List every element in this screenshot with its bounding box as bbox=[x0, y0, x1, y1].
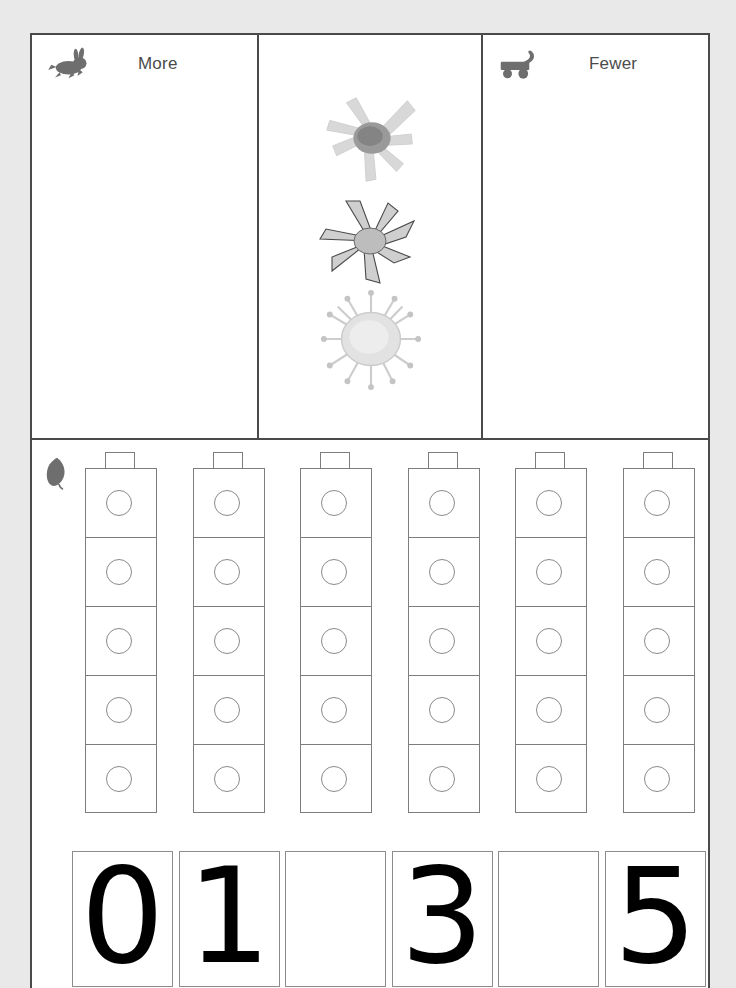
cube-circle-marker bbox=[429, 628, 455, 654]
number-value: 0 bbox=[81, 851, 165, 982]
cube-tower[interactable] bbox=[85, 452, 157, 832]
cube-segment[interactable] bbox=[85, 537, 157, 606]
leaf-icon bbox=[44, 456, 70, 490]
tower-stack bbox=[85, 468, 157, 813]
cube-segment[interactable] bbox=[623, 537, 695, 606]
cube-circle-marker bbox=[106, 628, 132, 654]
number-box[interactable]: 1 bbox=[179, 851, 280, 987]
tower-stack bbox=[515, 468, 587, 813]
tower-stack bbox=[193, 468, 265, 813]
cube-segment[interactable] bbox=[515, 744, 587, 813]
cube-segment[interactable] bbox=[85, 606, 157, 675]
tower-nub bbox=[213, 452, 243, 469]
cube-segment[interactable] bbox=[300, 468, 372, 537]
tower-stack bbox=[300, 468, 372, 813]
star-flower-image-2 bbox=[309, 191, 431, 291]
tower-nub bbox=[428, 452, 458, 469]
cube-segment[interactable] bbox=[623, 606, 695, 675]
cube-circle-marker bbox=[214, 766, 240, 792]
lower-section: 0 1 3 5 bbox=[32, 442, 708, 988]
number-box[interactable] bbox=[498, 851, 599, 987]
cube-circle-marker bbox=[536, 697, 562, 723]
cube-circle-marker bbox=[644, 766, 670, 792]
number-value: 1 bbox=[187, 851, 271, 982]
cube-circle-marker bbox=[536, 628, 562, 654]
tower-nub bbox=[535, 452, 565, 469]
cube-segment[interactable] bbox=[515, 537, 587, 606]
number-value: 3 bbox=[400, 851, 484, 982]
cube-segment[interactable] bbox=[193, 468, 265, 537]
cube-circle-marker bbox=[429, 697, 455, 723]
cube-segment[interactable] bbox=[193, 537, 265, 606]
cube-segment[interactable] bbox=[85, 744, 157, 813]
cube-circle-marker bbox=[536, 766, 562, 792]
tower-nub bbox=[105, 452, 135, 469]
number-box[interactable]: 5 bbox=[605, 851, 706, 987]
cube-segment[interactable] bbox=[300, 744, 372, 813]
cube-circle-marker bbox=[214, 697, 240, 723]
cube-circle-marker bbox=[106, 559, 132, 585]
cube-segment[interactable] bbox=[300, 606, 372, 675]
cube-segment[interactable] bbox=[623, 744, 695, 813]
cube-circle-marker bbox=[429, 559, 455, 585]
cube-segment[interactable] bbox=[623, 468, 695, 537]
cube-circle-marker bbox=[214, 490, 240, 516]
cube-segment[interactable] bbox=[408, 537, 480, 606]
cube-segment[interactable] bbox=[408, 606, 480, 675]
cube-segment[interactable] bbox=[85, 675, 157, 744]
cube-tower[interactable] bbox=[515, 452, 587, 832]
cube-circle-marker bbox=[106, 766, 132, 792]
number-box[interactable]: 3 bbox=[392, 851, 493, 987]
number-box-row: 0 1 3 5 bbox=[72, 851, 706, 987]
cube-circle-marker bbox=[321, 559, 347, 585]
cube-circle-marker bbox=[644, 559, 670, 585]
cube-circle-marker bbox=[321, 697, 347, 723]
cube-circle-marker bbox=[536, 559, 562, 585]
panel-fewer[interactable]: Fewer bbox=[483, 35, 708, 438]
cube-circle-marker bbox=[429, 766, 455, 792]
number-box[interactable] bbox=[285, 851, 386, 987]
cube-tower-group bbox=[85, 452, 695, 832]
cube-segment[interactable] bbox=[515, 468, 587, 537]
panel-fewer-label: Fewer bbox=[589, 54, 637, 74]
cube-tower[interactable] bbox=[193, 452, 265, 832]
panel-center-images[interactable] bbox=[259, 35, 483, 438]
cube-segment[interactable] bbox=[85, 468, 157, 537]
cube-tower[interactable] bbox=[300, 452, 372, 832]
center-artwork-group bbox=[295, 87, 445, 393]
tower-stack bbox=[408, 468, 480, 813]
top-panel-row: More bbox=[32, 35, 708, 440]
cube-circle-marker bbox=[106, 490, 132, 516]
cube-circle-marker bbox=[321, 490, 347, 516]
cube-segment[interactable] bbox=[515, 675, 587, 744]
cube-segment[interactable] bbox=[193, 675, 265, 744]
number-box[interactable]: 0 bbox=[72, 851, 173, 987]
tower-stack bbox=[623, 468, 695, 813]
cube-segment[interactable] bbox=[515, 606, 587, 675]
cube-segment[interactable] bbox=[623, 675, 695, 744]
panel-more[interactable]: More bbox=[32, 35, 259, 438]
panel-fewer-header: Fewer bbox=[497, 47, 637, 81]
cube-segment[interactable] bbox=[300, 675, 372, 744]
panel-more-label: More bbox=[138, 54, 178, 74]
panel-more-header: More bbox=[46, 47, 178, 81]
cube-circle-marker bbox=[644, 628, 670, 654]
cube-segment[interactable] bbox=[300, 537, 372, 606]
cube-segment[interactable] bbox=[193, 606, 265, 675]
cube-circle-marker bbox=[321, 766, 347, 792]
number-value: 5 bbox=[613, 851, 697, 982]
cube-circle-marker bbox=[644, 697, 670, 723]
cube-segment[interactable] bbox=[408, 675, 480, 744]
cube-segment[interactable] bbox=[408, 744, 480, 813]
worksheet-page: More bbox=[30, 33, 710, 988]
cube-circle-marker bbox=[106, 697, 132, 723]
cube-tower[interactable] bbox=[408, 452, 480, 832]
tower-nub bbox=[320, 452, 350, 469]
cube-tower[interactable] bbox=[623, 452, 695, 832]
cube-segment[interactable] bbox=[408, 468, 480, 537]
cube-circle-marker bbox=[644, 490, 670, 516]
cube-circle-marker bbox=[321, 628, 347, 654]
cube-circle-marker bbox=[214, 559, 240, 585]
cube-circle-marker bbox=[429, 490, 455, 516]
cube-segment[interactable] bbox=[193, 744, 265, 813]
